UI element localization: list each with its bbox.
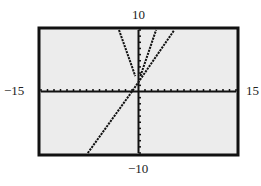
graph-plot xyxy=(0,0,261,186)
